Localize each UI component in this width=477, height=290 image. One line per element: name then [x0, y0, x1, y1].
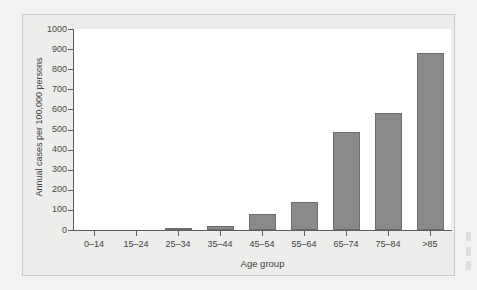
bar [165, 228, 192, 230]
figure-panel: 01002003004005006007008009001000 Annual … [22, 14, 455, 276]
y-axis-tick-label: 500 [27, 125, 67, 134]
bar [207, 226, 234, 230]
bar [417, 53, 444, 230]
y-axis-tick [68, 109, 73, 110]
y-axis-tick [68, 130, 73, 131]
y-axis-tick-labels: 01002003004005006007008009001000 [23, 15, 67, 277]
x-axis-tick-label: >85 [407, 239, 453, 249]
y-axis-tick-label: 600 [27, 105, 67, 114]
y-axis-tick-label: 1000 [27, 25, 67, 34]
y-axis-tick-label: 100 [27, 205, 67, 214]
bar [249, 214, 276, 230]
x-axis-tick [220, 231, 221, 236]
x-axis-tick-label: 65–74 [323, 239, 369, 249]
y-axis-tick-label: 800 [27, 65, 67, 74]
x-axis-tick-label: 25–34 [155, 239, 201, 249]
scan-artifact-3 [466, 261, 471, 270]
y-axis-tick [68, 210, 73, 211]
x-axis-tick [178, 231, 179, 236]
bar-chart: 01002003004005006007008009001000 Annual … [23, 15, 456, 277]
x-axis-tick [136, 231, 137, 236]
y-axis-tick [68, 29, 73, 30]
x-axis-tick [388, 231, 389, 236]
y-axis-tick [68, 150, 73, 151]
y-axis-title: Annual cases per 100,000 persons [34, 37, 44, 217]
x-axis-tick-label: 55–64 [281, 239, 327, 249]
x-axis-tick-label: 15–24 [113, 239, 159, 249]
x-axis-tick [262, 231, 263, 236]
y-axis-tick [68, 190, 73, 191]
x-axis-tick [430, 231, 431, 236]
y-axis-tick [68, 170, 73, 171]
x-axis-tick [304, 231, 305, 236]
x-axis-tick-label: 45–54 [239, 239, 285, 249]
y-axis-tick-label: 700 [27, 85, 67, 94]
x-axis-tick [346, 231, 347, 236]
y-axis-tick-label: 900 [27, 45, 67, 54]
y-axis-tick [68, 49, 73, 50]
x-axis-tick-label: 35–44 [197, 239, 243, 249]
bar [333, 132, 360, 230]
y-axis-tick-label: 400 [27, 145, 67, 154]
y-axis-tick [68, 230, 73, 231]
scan-artifact-2 [466, 247, 471, 256]
y-axis-tick-label: 300 [27, 165, 67, 174]
y-axis-tick-label: 0 [27, 226, 67, 235]
y-axis-tick [68, 69, 73, 70]
y-axis-line [73, 29, 74, 231]
y-axis-tick-label: 200 [27, 185, 67, 194]
y-axis-tick [68, 89, 73, 90]
x-axis-tick-label: 0–14 [71, 239, 117, 249]
scan-artifact-1 [466, 232, 471, 241]
x-axis-tick [94, 231, 95, 236]
bar [291, 202, 318, 230]
bar [375, 113, 402, 230]
x-axis-tick-label: 75–84 [365, 239, 411, 249]
x-axis-title: Age group [73, 258, 452, 269]
